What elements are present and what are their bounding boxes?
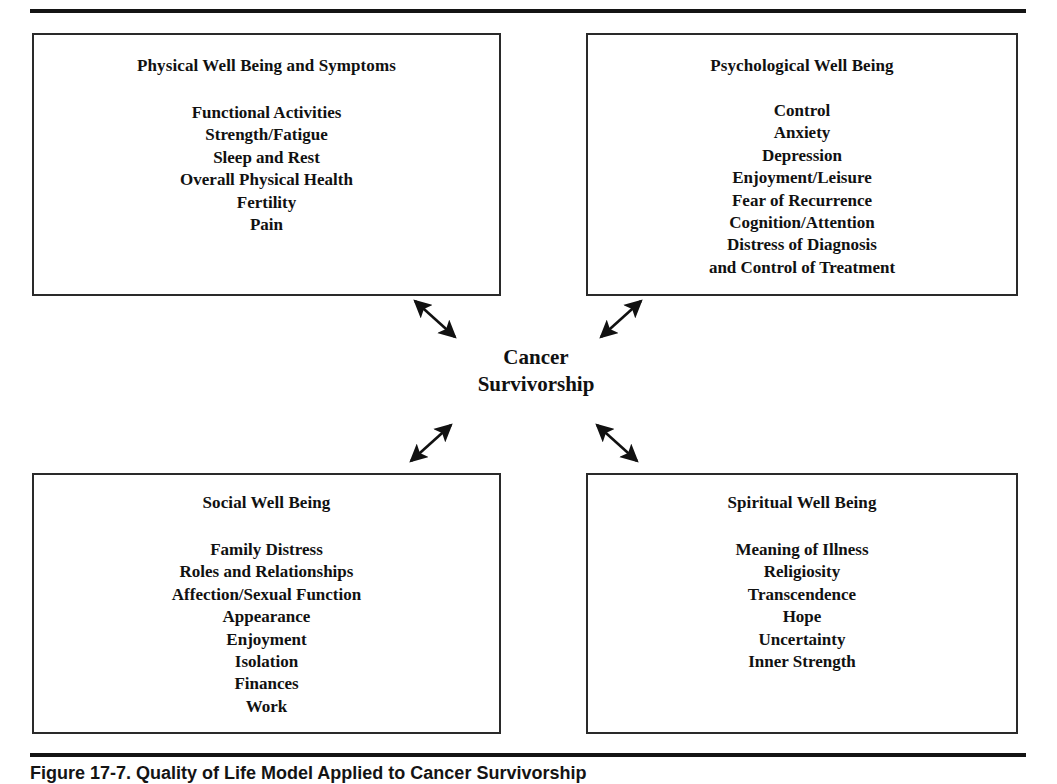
list-item: Distress of Diagnosis bbox=[588, 234, 1016, 256]
quadrant-title-social: Social Well Being bbox=[34, 475, 499, 513]
list-item: Work bbox=[34, 696, 499, 718]
quadrant-items-psychological: Control Anxiety Depression Enjoyment/Lei… bbox=[588, 100, 1016, 279]
quadrant-box-physical: Physical Well Being and Symptoms Functio… bbox=[32, 33, 501, 296]
list-item: Meaning of Illness bbox=[588, 539, 1016, 561]
list-item: Uncertainty bbox=[588, 629, 1016, 651]
list-item: Hope bbox=[588, 606, 1016, 628]
quadrant-box-psychological: Psychological Well Being Control Anxiety… bbox=[586, 33, 1018, 296]
list-item: Strength/Fatigue bbox=[34, 124, 499, 146]
center-label-line1: Cancer bbox=[434, 344, 638, 371]
quadrant-items-physical: Functional Activities Strength/Fatigue S… bbox=[34, 102, 499, 236]
quadrant-box-social: Social Well Being Family Distress Roles … bbox=[32, 473, 501, 734]
list-item: Pain bbox=[34, 214, 499, 236]
quadrant-title-spiritual: Spiritual Well Being bbox=[588, 475, 1016, 513]
figure-caption: Figure 17-7. Quality of Life Model Appli… bbox=[30, 763, 1030, 784]
list-item: Appearance bbox=[34, 606, 499, 628]
list-item: Inner Strength bbox=[588, 651, 1016, 673]
list-item: Cognition/Attention bbox=[588, 212, 1016, 234]
list-item: Enjoyment bbox=[34, 629, 499, 651]
quadrant-items-social: Family Distress Roles and Relationships … bbox=[34, 539, 499, 718]
arrow-upper-right-icon bbox=[592, 294, 650, 344]
list-item: Transcendence bbox=[588, 584, 1016, 606]
list-item: Anxiety bbox=[588, 122, 1016, 144]
arrow-lower-left-icon bbox=[402, 417, 460, 469]
list-item: Sleep and Rest bbox=[34, 147, 499, 169]
quadrant-title-physical: Physical Well Being and Symptoms bbox=[34, 35, 499, 76]
list-item: Depression bbox=[588, 145, 1016, 167]
list-item: Functional Activities bbox=[34, 102, 499, 124]
center-label-line2: Survivorship bbox=[434, 371, 638, 398]
list-item: Family Distress bbox=[34, 539, 499, 561]
list-item: Affection/Sexual Function bbox=[34, 584, 499, 606]
top-horizontal-rule bbox=[30, 9, 1026, 13]
quadrant-title-psychological: Psychological Well Being bbox=[588, 35, 1016, 76]
list-item: Finances bbox=[34, 673, 499, 695]
quadrant-items-spiritual: Meaning of Illness Religiosity Transcend… bbox=[588, 539, 1016, 673]
arrow-upper-left-icon bbox=[406, 294, 464, 344]
list-item: Isolation bbox=[34, 651, 499, 673]
list-item: Religiosity bbox=[588, 561, 1016, 583]
bottom-horizontal-rule bbox=[30, 753, 1026, 757]
list-item: Fertility bbox=[34, 192, 499, 214]
list-item: Control bbox=[588, 100, 1016, 122]
list-item: Fear of Recurrence bbox=[588, 190, 1016, 212]
quadrant-box-spiritual: Spiritual Well Being Meaning of Illness … bbox=[586, 473, 1018, 734]
list-item: Enjoyment/Leisure bbox=[588, 167, 1016, 189]
center-label-cancer-survivorship: Cancer Survivorship bbox=[434, 344, 638, 398]
list-item: Overall Physical Health bbox=[34, 169, 499, 191]
list-item: and Control of Treatment bbox=[588, 257, 1016, 279]
arrow-lower-right-icon bbox=[588, 417, 646, 469]
list-item: Roles and Relationships bbox=[34, 561, 499, 583]
